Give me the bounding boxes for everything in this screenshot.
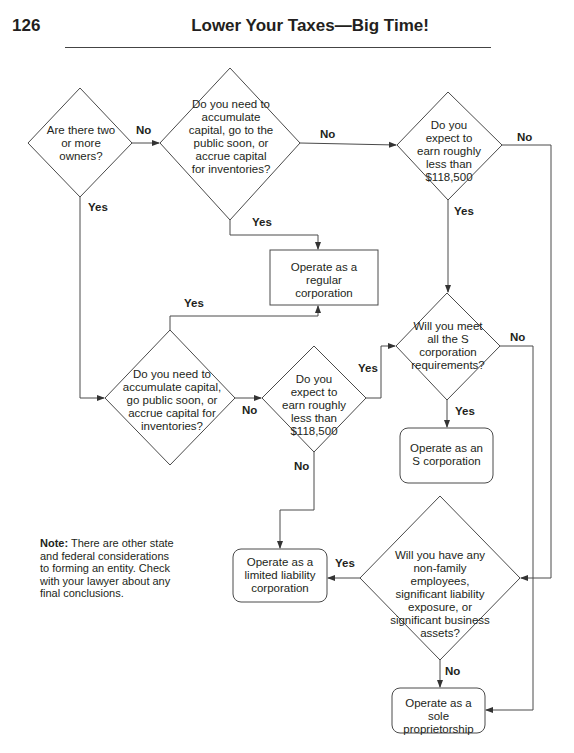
decision-earn-top: Do you expect to earn roughly less than …: [414, 119, 484, 184]
edge-label-owners-no: No: [136, 124, 151, 136]
edge-label-earn-bottom-no: No: [294, 460, 309, 472]
decision-capital-top: Do you need to accumulate capital, go to…: [188, 98, 274, 176]
decision-capital-bottom: Do you need to accumulate capital, go pu…: [120, 368, 224, 433]
footnote-label: Note:: [40, 537, 68, 549]
edge-label-earn-top-no: No: [517, 131, 532, 143]
outcome-sole-proprietorship: Operate as a sole proprietorship: [396, 697, 481, 736]
edge-label-earn-bottom-yes: Yes: [358, 362, 378, 374]
decision-employees: Will you have any non-family employees, …: [385, 549, 495, 640]
decision-earn-bottom: Do you expect to earn roughly less than …: [278, 373, 350, 438]
outcome-regular-corporation: Operate as a regular corporation: [280, 261, 368, 300]
edge-label-owners-yes: Yes: [88, 201, 108, 213]
decision-s-requirements: Will you meet all the S corporation requ…: [410, 320, 486, 372]
edge-label-s-req-no: No: [510, 331, 525, 343]
decision-owners: Are there two or more owners?: [45, 124, 117, 163]
footnote: Note: There are other state and federal …: [40, 537, 180, 600]
outcome-llc: Operate as a limited liability corporati…: [237, 556, 323, 595]
edge-label-employees-no: No: [445, 665, 460, 677]
edge-label-s-req-yes: Yes: [455, 405, 475, 417]
outcome-s-corporation: Operate as an S corporation: [405, 442, 488, 468]
edge-label-capital-top-no: No: [320, 128, 335, 140]
edge-label-capital-bottom-no: No: [242, 404, 257, 416]
edge-label-employees-yes: Yes: [335, 557, 355, 569]
edge-label-earn-top-yes: Yes: [454, 205, 474, 217]
edge-label-capital-top-yes: Yes: [252, 216, 272, 228]
edge-label-capital-bottom-yes: Yes: [184, 297, 204, 309]
